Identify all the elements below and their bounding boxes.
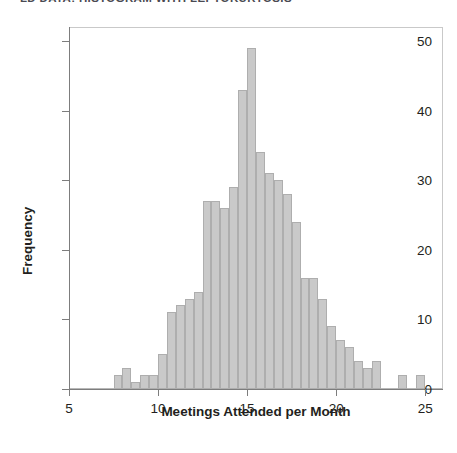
y-tick-mark [62,180,69,181]
x-tick-mark [425,389,426,396]
chart-title: LD DATA: HISTOGRAM WITH LEPTOKURTOSIS [20,0,440,5]
y-tick-mark [62,41,69,42]
y-tick-mark [62,250,69,251]
x-tick-mark [247,389,248,396]
x-tick-mark [158,389,159,396]
y-axis-label: Frequency [20,207,35,275]
y-tick-mark [62,389,69,390]
histogram-figure: LD DATA: HISTOGRAM WITH LEPTOKURTOSIS 01… [0,0,457,453]
y-tick-mark [62,319,69,320]
x-axis-ticks: 510152025 [69,27,443,389]
y-tick-mark [62,111,69,112]
x-tick-mark [69,389,70,396]
x-axis-label: Meetings Attended per Month [69,404,443,419]
x-tick-mark [336,389,337,396]
